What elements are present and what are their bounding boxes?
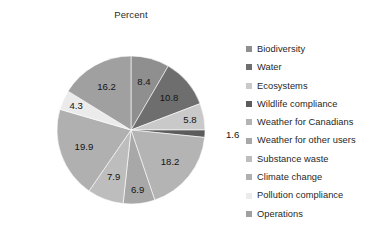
legend-item-label: Wildlife compliance [257, 95, 338, 113]
legend-item-label: Substance waste [257, 150, 329, 168]
chart-legend: BiodiversityWaterEcosystemsWildlife comp… [246, 40, 390, 223]
pie-chart-figure: Percent 8.410.85.81.618.26.97.919.94.316… [0, 0, 390, 237]
pie-slices-group [57, 56, 205, 204]
legend-color-swatch-icon [246, 211, 252, 217]
legend-item-label: Ecosystems [257, 77, 308, 95]
legend-item-label: Weather for Canadians [257, 113, 353, 131]
pie-slice-value-label: 8.4 [137, 76, 151, 87]
legend-item[interactable]: Pollution compliance [246, 186, 390, 204]
legend-item[interactable]: Substance waste [246, 150, 390, 168]
pie-slice-value-label: 10.8 [160, 92, 179, 103]
legend-item-label: Operations [257, 205, 303, 223]
legend-item[interactable]: Weather for other users [246, 131, 390, 149]
legend-item[interactable]: Operations [246, 205, 390, 223]
legend-color-swatch-icon [246, 156, 252, 162]
pie-slice-value-label: 7.9 [107, 171, 120, 182]
legend-item[interactable]: Biodiversity [246, 40, 390, 58]
legend-item-label: Weather for other users [257, 131, 356, 149]
legend-item[interactable]: Ecosystems [246, 77, 390, 95]
legend-color-swatch-icon [246, 174, 252, 180]
legend-color-swatch-icon [246, 101, 252, 107]
pie-slice-value-label: 5.8 [183, 114, 196, 125]
legend-color-swatch-icon [246, 119, 252, 125]
legend-color-swatch-icon [246, 46, 252, 52]
legend-item[interactable]: Water [246, 58, 390, 76]
pie-slice-value-label: 6.9 [131, 184, 144, 195]
legend-color-swatch-icon [246, 138, 252, 144]
legend-item[interactable]: Weather for Canadians [246, 113, 390, 131]
legend-item-label: Climate change [257, 168, 322, 186]
pie-slice-value-label: 1.6 [226, 129, 239, 140]
pie-slice-value-label: 4.3 [70, 100, 83, 111]
pie-slice-value-label: 16.2 [97, 81, 116, 92]
legend-item[interactable]: Climate change [246, 168, 390, 186]
pie-slice-value-label: 19.9 [75, 141, 94, 152]
legend-item-label: Pollution compliance [257, 186, 343, 204]
legend-color-swatch-icon [246, 64, 252, 70]
legend-color-swatch-icon [246, 193, 252, 199]
legend-item[interactable]: Wildlife compliance [246, 95, 390, 113]
legend-color-swatch-icon [246, 83, 252, 89]
legend-item-label: Water [257, 58, 282, 76]
pie-plot-area: 8.410.85.81.618.26.97.919.94.316.2 [0, 0, 250, 237]
pie-svg: 8.410.85.81.618.26.97.919.94.316.2 [0, 0, 250, 237]
pie-slice-value-label: 18.2 [161, 156, 180, 167]
legend-item-label: Biodiversity [257, 40, 305, 58]
